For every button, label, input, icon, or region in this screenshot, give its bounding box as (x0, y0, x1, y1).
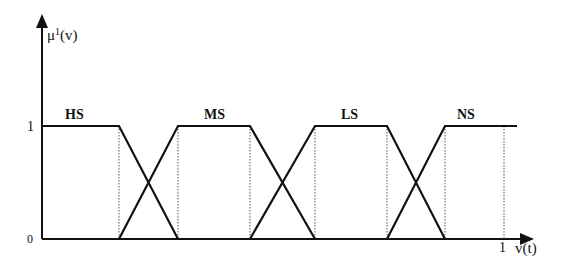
y-tick-zero: 0 (27, 232, 33, 246)
series-ns (387, 126, 517, 239)
label-ms: MS (204, 107, 225, 122)
y-axis-label: μ1(v) (47, 26, 78, 44)
series-hs (42, 126, 178, 239)
membership-function-chart: μ1(v) 1 0 1 v(t) HS MS LS NS (0, 0, 569, 265)
label-ns: NS (457, 107, 475, 122)
x-tick-one: 1 (499, 240, 506, 255)
label-ls: LS (341, 107, 358, 122)
y-tick-one: 1 (27, 119, 34, 134)
dotted-guides (119, 126, 504, 239)
label-hs: HS (65, 107, 84, 122)
x-axis-label: v(t) (515, 240, 537, 257)
series-ms (119, 126, 315, 239)
